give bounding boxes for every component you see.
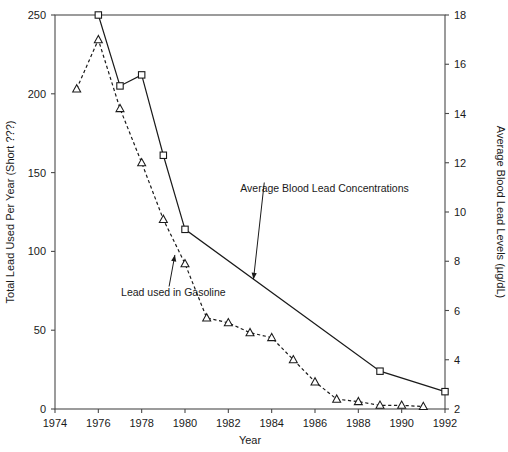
y2-tick-label: 4: [454, 354, 460, 366]
x-tick-label: 1990: [389, 417, 413, 429]
x-axis-title: Year: [239, 434, 262, 446]
x-tick-label: 1992: [433, 417, 457, 429]
y-tick-label: 100: [28, 245, 46, 257]
data-point-marker: [442, 388, 448, 394]
chart-figure: 1974197619781980198219841986198819901992…: [0, 0, 508, 452]
dual-axis-line-chart: 1974197619781980198219841986198819901992…: [0, 0, 508, 452]
y2-tick-label: 6: [454, 305, 460, 317]
gasoline-annotation-label: Lead used in Gasoline: [121, 286, 226, 298]
data-point-marker: [138, 72, 144, 78]
x-tick-label: 1986: [303, 417, 327, 429]
x-tick-label: 1984: [259, 417, 283, 429]
x-tick-label: 1974: [43, 417, 67, 429]
data-point-marker: [117, 83, 123, 89]
data-point-marker: [95, 12, 101, 18]
blood-lead-annotation-label: Average Blood Lead Concentrations: [240, 182, 409, 194]
y-tick-label: 0: [40, 403, 46, 415]
y2-tick-label: 2: [454, 403, 460, 415]
x-tick-label: 1988: [346, 417, 370, 429]
y-tick-label: 50: [34, 324, 46, 336]
y2-tick-label: 14: [454, 108, 466, 120]
x-tick-label: 1982: [216, 417, 240, 429]
y2-tick-label: 8: [454, 255, 460, 267]
x-tick-label: 1978: [129, 417, 153, 429]
data-point-marker: [160, 152, 166, 158]
x-tick-label: 1980: [173, 417, 197, 429]
y2-tick-label: 10: [454, 206, 466, 218]
chart-background: [0, 0, 508, 452]
y-tick-label: 200: [28, 88, 46, 100]
data-point-marker: [182, 226, 188, 232]
y-tick-label: 150: [28, 167, 46, 179]
y-tick-label: 250: [28, 9, 46, 21]
x-tick-label: 1976: [86, 417, 110, 429]
y-axis-left-title: Total Lead Used Per Year (Short ???): [4, 121, 16, 304]
data-point-marker: [377, 368, 383, 374]
y2-tick-label: 18: [454, 9, 466, 21]
y-axis-right-title: Average Blood Lead Levels (µg/dL): [495, 126, 507, 298]
y2-tick-label: 16: [454, 58, 466, 70]
y2-tick-label: 12: [454, 157, 466, 169]
